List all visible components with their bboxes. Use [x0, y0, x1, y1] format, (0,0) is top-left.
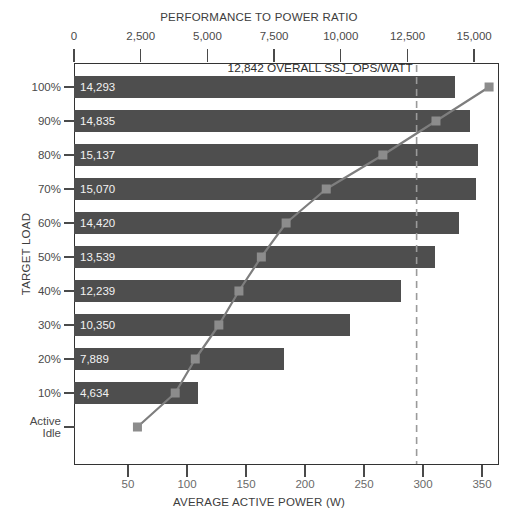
bar: 15,137	[74, 144, 478, 166]
bar-value-label: 4,634	[80, 387, 109, 399]
bar: 14,835	[74, 110, 470, 132]
y-axis-tick-label: ActiveIdle	[30, 416, 61, 439]
bar: 13,539	[74, 246, 435, 268]
bottom-axis-tick-label: 200	[295, 478, 314, 490]
y-axis-tick-label: 60%	[38, 217, 61, 229]
top-axis-tick-label: 5,000	[193, 30, 222, 42]
y-axis-tick-label: 40%	[38, 285, 61, 297]
bottom-axis-tick-label: 250	[354, 478, 373, 490]
bottom-axis-tick-label: 50	[122, 478, 135, 490]
bottom-axis-tick	[422, 465, 423, 477]
top-axis-tick-label: 10,000	[323, 30, 358, 42]
bar-value-label: 14,420	[80, 217, 115, 229]
top-axis-tick-label: 2,500	[126, 30, 155, 42]
y-axis-tick-label: 80%	[38, 149, 61, 161]
bar-value-label: 13,539	[80, 251, 115, 263]
bar: 7,889	[74, 348, 284, 370]
bar: 14,420	[74, 212, 459, 234]
y-axis-tick-label: 20%	[38, 353, 61, 365]
y-axis-tick-label: 100%	[32, 81, 61, 93]
bar-value-label: 14,293	[80, 81, 115, 93]
chart-title-bottom: AVERAGE ACTIVE POWER (W)	[0, 496, 518, 508]
chart-title-top: PERFORMANCE TO POWER RATIO	[0, 11, 518, 23]
bottom-axis-tick-label: 350	[472, 478, 491, 490]
top-axis-tick-label: 0	[71, 30, 77, 42]
top-axis-tick	[207, 49, 208, 62]
bar-value-label: 15,137	[80, 149, 115, 161]
bottom-axis-tick-label: 300	[413, 478, 432, 490]
y-axis-tick	[64, 426, 75, 428]
bar: 15,070	[74, 178, 476, 200]
bottom-axis-tick	[127, 465, 128, 477]
bar: 12,239	[74, 280, 401, 302]
y-axis-tick-label: 10%	[38, 387, 61, 399]
bottom-axis-tick-label: 150	[236, 478, 255, 490]
bar: 14,293	[74, 76, 455, 98]
chart-canvas: PERFORMANCE TO POWER RATIO TARGET LOAD A…	[0, 0, 518, 526]
top-axis-tick-label: 15,000	[457, 30, 492, 42]
bar-value-label: 15,070	[80, 183, 115, 195]
y-axis-title: TARGET LOAD	[20, 184, 32, 324]
bar-value-label: 7,889	[80, 353, 109, 365]
top-axis-tick	[73, 49, 74, 62]
bottom-axis-tick	[304, 465, 305, 477]
top-axis-tick	[140, 49, 141, 62]
y-axis-tick-label: 50%	[38, 251, 61, 263]
y-axis-tick-label: 30%	[38, 319, 61, 331]
bar-value-label: 12,239	[80, 285, 115, 297]
bar-value-label: 14,835	[80, 115, 115, 127]
y-axis-tick-label: 70%	[38, 183, 61, 195]
bottom-axis-tick	[245, 465, 246, 477]
bottom-axis-tick	[481, 465, 482, 477]
bar: 4,634	[74, 382, 198, 404]
bar-value-label: 10,350	[80, 319, 115, 331]
bar: 10,350	[74, 314, 350, 336]
bottom-axis-tick	[363, 465, 364, 477]
top-axis-tick	[473, 49, 474, 62]
y-axis-tick-label: 90%	[38, 115, 61, 127]
overall-annotation-label: 12,842 OVERALL SSJ_OPS/WATT	[228, 61, 413, 75]
top-axis-tick-label: 12,500	[390, 30, 425, 42]
top-axis-tick-label: 7,500	[260, 30, 289, 42]
bottom-axis-tick	[186, 465, 187, 477]
bottom-axis-tick-label: 100	[177, 478, 196, 490]
